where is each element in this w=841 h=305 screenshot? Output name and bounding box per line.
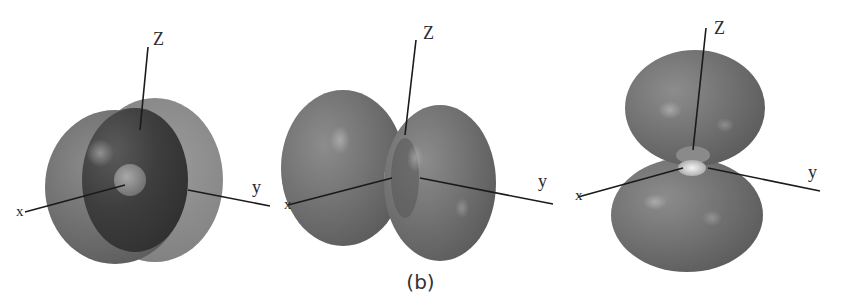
highlight — [658, 101, 682, 119]
y-axis-label: y — [538, 171, 547, 191]
highlight — [86, 139, 114, 167]
highlight — [330, 126, 350, 154]
x-axis-label: x — [284, 196, 292, 212]
z-axis-label: Z — [714, 18, 725, 38]
panel-2: Z x y — [281, 23, 553, 261]
y-axis-label: y — [252, 177, 261, 197]
y-axis-label: y — [808, 162, 817, 182]
orbital-figure: Z x y Z x y Z x y — [0, 0, 841, 305]
caption-text: (b) — [406, 270, 434, 294]
highlight — [455, 198, 469, 218]
z-axis-label: Z — [153, 29, 164, 49]
highlight — [702, 210, 722, 226]
orbital-core — [114, 164, 146, 196]
panel-3: Z x y — [575, 18, 820, 272]
highlight — [716, 118, 734, 132]
figure-caption: (b) — [0, 270, 841, 294]
x-axis-label: x — [575, 187, 583, 203]
panel-1: Z x y — [16, 29, 270, 264]
highlight — [643, 194, 667, 210]
highlight — [407, 144, 423, 172]
x-axis-label: x — [16, 203, 24, 219]
z-axis-label: Z — [423, 23, 434, 43]
